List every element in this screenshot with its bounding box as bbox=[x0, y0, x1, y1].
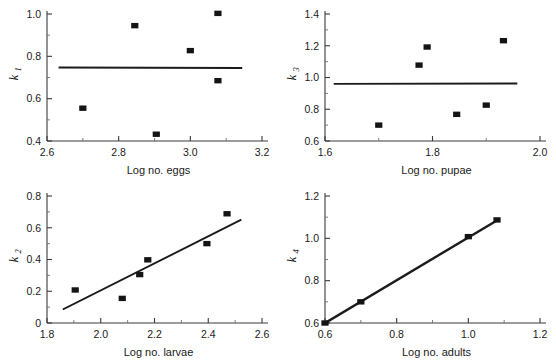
y-axis-ticks bbox=[325, 196, 330, 323]
data-points bbox=[79, 11, 221, 137]
x-tick-label: 1.6 bbox=[318, 146, 333, 158]
data-point-marker bbox=[500, 38, 507, 43]
y-tick-labels: 0.60.81.01.21.4 bbox=[304, 8, 319, 147]
x-axis-ticks bbox=[325, 318, 540, 323]
y-tick-label: 1.0 bbox=[304, 232, 319, 244]
y-tick-label: 0.6 bbox=[304, 135, 319, 147]
x-tick-labels: 1.61.82.0 bbox=[318, 146, 548, 158]
x-axis-title: Log no. adults bbox=[402, 346, 472, 358]
x-tick-label: 1.8 bbox=[425, 146, 440, 158]
x-axis-ticks bbox=[47, 318, 262, 323]
panel-k2-vs-log-larvae: 1.82.02.22.42.600.20.40.60.8Log no. larv… bbox=[0, 182, 278, 364]
data-point-marker bbox=[119, 296, 126, 301]
data-point-marker bbox=[72, 287, 79, 292]
data-point-marker bbox=[493, 217, 500, 222]
data-point-marker bbox=[424, 44, 431, 49]
y-axis-title: k3 bbox=[285, 67, 301, 80]
svg-text:k: k bbox=[285, 74, 299, 80]
data-point-marker bbox=[465, 234, 472, 239]
data-point-marker bbox=[375, 122, 382, 127]
x-tick-label: 1.0 bbox=[461, 328, 476, 340]
x-tick-label: 0.8 bbox=[389, 328, 404, 340]
y-tick-label: 0.8 bbox=[26, 190, 41, 202]
y-tick-label: 0.8 bbox=[304, 274, 319, 286]
data-point-marker bbox=[144, 257, 151, 262]
svg-text:2: 2 bbox=[13, 249, 23, 254]
data-point-marker bbox=[136, 272, 143, 277]
y-tick-label: 0.6 bbox=[304, 317, 319, 329]
x-tick-label: 2.0 bbox=[533, 146, 548, 158]
x-tick-label: 3.2 bbox=[255, 146, 270, 158]
data-point-marker bbox=[214, 11, 221, 16]
x-tick-label: 1.2 bbox=[533, 328, 548, 340]
four-panel-scatter-figure: 2.62.83.03.20.40.60.81.0Log no. eggsk11.… bbox=[0, 0, 556, 364]
svg-text:k: k bbox=[7, 74, 21, 80]
x-tick-labels: 0.60.81.01.2 bbox=[318, 328, 548, 340]
data-point-marker bbox=[321, 320, 328, 325]
data-point-marker bbox=[203, 241, 210, 246]
x-axis-title: Log no. larvae bbox=[124, 346, 194, 358]
y-tick-label: 0.8 bbox=[304, 103, 319, 115]
svg-text:1: 1 bbox=[13, 67, 23, 71]
data-point-marker bbox=[357, 299, 364, 304]
x-axis-ticks bbox=[325, 136, 540, 141]
y-tick-label: 0 bbox=[35, 317, 41, 329]
y-tick-label: 0.4 bbox=[26, 253, 41, 265]
y-tick-label: 0.6 bbox=[26, 92, 41, 104]
y-tick-labels: 0.60.81.01.2 bbox=[304, 190, 319, 329]
data-point-marker bbox=[223, 211, 230, 216]
data-point-marker bbox=[153, 132, 160, 137]
y-tick-label: 1.0 bbox=[304, 71, 319, 83]
data-point-marker bbox=[214, 78, 221, 83]
axes bbox=[325, 11, 546, 141]
y-tick-label: 1.2 bbox=[304, 40, 319, 52]
x-tick-label: 0.6 bbox=[318, 328, 333, 340]
data-point-marker bbox=[415, 62, 422, 67]
y-tick-labels: 00.20.40.60.8 bbox=[26, 190, 41, 329]
y-tick-label: 0.8 bbox=[26, 50, 41, 62]
data-point-marker bbox=[131, 23, 138, 28]
x-axis-title: Log no. pupae bbox=[401, 164, 471, 176]
y-tick-label: 0.6 bbox=[26, 222, 41, 234]
svg-text:4: 4 bbox=[291, 249, 301, 254]
y-axis-title: k1 bbox=[7, 67, 23, 80]
data-points bbox=[72, 211, 231, 301]
y-tick-labels: 0.40.60.81.0 bbox=[26, 8, 41, 147]
svg-text:3: 3 bbox=[291, 67, 301, 72]
y-axis-ticks bbox=[47, 14, 52, 141]
data-point-marker bbox=[483, 102, 490, 107]
x-tick-labels: 2.62.83.03.2 bbox=[40, 146, 270, 158]
x-tick-label: 2.2 bbox=[147, 328, 162, 340]
y-tick-label: 0.2 bbox=[26, 285, 41, 297]
panel-k4-vs-log-adults: 0.60.81.01.20.60.81.01.2Log no. adultsk4 bbox=[278, 182, 556, 364]
axes bbox=[47, 11, 268, 141]
x-tick-label: 2.4 bbox=[201, 328, 216, 340]
x-tick-label: 3.0 bbox=[183, 146, 198, 158]
y-tick-label: 0.4 bbox=[26, 135, 41, 147]
x-tick-label: 1.8 bbox=[40, 328, 55, 340]
x-axis-title: Log no. eggs bbox=[127, 164, 191, 176]
svg-text:k: k bbox=[7, 256, 21, 262]
regression-line bbox=[325, 219, 499, 323]
axes bbox=[47, 193, 268, 323]
data-point-marker bbox=[187, 48, 194, 53]
panel-k3-vs-log-pupae: 1.61.82.00.60.81.01.21.4Log no. pupaek3 bbox=[278, 0, 556, 182]
y-axis-ticks bbox=[47, 196, 52, 323]
y-axis-title: k2 bbox=[7, 249, 23, 263]
panel-k1-vs-log-eggs: 2.62.83.03.20.40.60.81.0Log no. eggsk1 bbox=[0, 0, 278, 182]
x-tick-label: 2.6 bbox=[255, 328, 270, 340]
y-tick-label: 1.2 bbox=[304, 190, 319, 202]
x-tick-label: 2.8 bbox=[111, 146, 126, 158]
x-tick-label: 2.0 bbox=[93, 328, 108, 340]
x-tick-label: 2.6 bbox=[40, 146, 55, 158]
x-tick-labels: 1.82.02.22.42.6 bbox=[40, 328, 270, 340]
data-point-marker bbox=[453, 112, 460, 117]
regression-line bbox=[64, 220, 241, 309]
svg-text:k: k bbox=[285, 256, 299, 262]
y-axis-title: k4 bbox=[285, 249, 301, 263]
y-axis-ticks bbox=[325, 14, 330, 141]
y-tick-label: 1.0 bbox=[26, 8, 41, 20]
data-point-marker bbox=[79, 105, 86, 110]
y-tick-label: 1.4 bbox=[304, 8, 319, 20]
